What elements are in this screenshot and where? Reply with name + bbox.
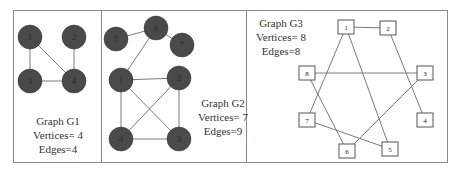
graph-g3-title: Graph G3 xyxy=(252,16,310,30)
node-g1-4: 4 xyxy=(62,69,86,93)
node-g3-1: 1 xyxy=(338,20,354,34)
node-g1-3: 3 xyxy=(18,69,42,93)
node-g2-7: 7 xyxy=(170,33,194,57)
svg-text:1: 1 xyxy=(344,24,348,32)
graph-g1-edges: Edges=4 xyxy=(22,142,94,156)
node-g3-2: 2 xyxy=(380,21,396,35)
svg-text:2: 2 xyxy=(177,73,182,83)
svg-text:3: 3 xyxy=(423,70,427,78)
graph-g2-vertices: Vertices= 7 xyxy=(198,110,248,124)
svg-text:6: 6 xyxy=(345,148,349,156)
graph-g2-title: Graph G2 xyxy=(198,96,248,110)
svg-text:7: 7 xyxy=(305,117,309,125)
edge-g3-8-6 xyxy=(307,73,347,151)
graph-g3-vertices: Vertices= 8 xyxy=(252,30,310,44)
node-g2-3: 3 xyxy=(167,127,191,151)
node-g3-7: 7 xyxy=(299,113,315,127)
svg-text:4: 4 xyxy=(72,76,77,86)
node-g3-4: 4 xyxy=(417,113,433,127)
graph-g3-edges: Edges=8 xyxy=(252,44,310,58)
svg-text:5: 5 xyxy=(114,34,119,44)
node-g1-2: 2 xyxy=(62,25,86,49)
svg-text:5: 5 xyxy=(388,146,392,154)
svg-text:7: 7 xyxy=(180,40,185,50)
node-g2-6: 6 xyxy=(144,16,168,40)
node-g1-1: 1 xyxy=(18,25,42,49)
graph-g1-vertices: Vertices= 4 xyxy=(22,128,94,142)
svg-text:4: 4 xyxy=(423,117,427,125)
svg-text:4: 4 xyxy=(119,134,124,144)
graph-g3-label: Graph G3 Vertices= 8 Edges=8 xyxy=(252,16,310,58)
svg-text:6: 6 xyxy=(154,23,159,33)
node-g3-6: 6 xyxy=(339,144,355,158)
node-g3-8: 8 xyxy=(299,66,315,80)
svg-text:1: 1 xyxy=(119,75,124,85)
graph-g2-label: Graph G2 Vertices= 7 Edges=9 xyxy=(198,96,248,138)
node-g2-5: 5 xyxy=(104,27,128,51)
node-g3-5: 5 xyxy=(382,142,398,156)
svg-text:2: 2 xyxy=(386,25,390,33)
graph-g1-title: Graph G1 xyxy=(22,114,94,128)
graph-g1-label: Graph G1 Vertices= 4 Edges=4 xyxy=(22,114,94,156)
node-g2-1: 1 xyxy=(109,68,133,92)
svg-text:2: 2 xyxy=(72,32,77,42)
svg-text:1: 1 xyxy=(28,32,33,42)
svg-text:8: 8 xyxy=(305,70,309,78)
graph-g2-edges: Edges=9 xyxy=(198,124,248,138)
node-g2-4: 4 xyxy=(109,127,133,151)
node-g2-2: 2 xyxy=(167,66,191,90)
svg-text:3: 3 xyxy=(28,76,33,86)
svg-text:3: 3 xyxy=(177,134,182,144)
node-g3-3: 3 xyxy=(417,66,433,80)
